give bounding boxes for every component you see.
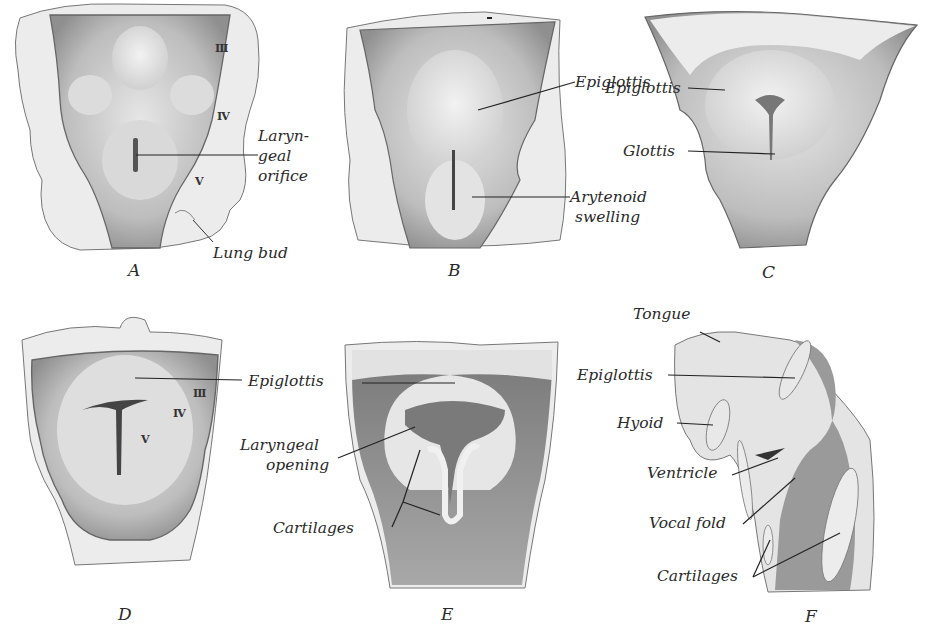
caption-b: B (448, 260, 461, 280)
label-cartilages-f: Cartilages (657, 568, 738, 585)
caption-d: D (118, 604, 132, 624)
label-ventricle: Ventricle (647, 465, 717, 482)
caption-f: F (805, 606, 817, 626)
label-laryngeal-orifice-2: geal (258, 148, 291, 165)
label-arytenoid-2: swelling (575, 209, 640, 226)
illustrations (0, 0, 930, 635)
label-epiglottis-e: Epiglottis (248, 373, 324, 390)
panel-f-illustration (668, 332, 874, 592)
arch-label-iv-a: IV (217, 110, 229, 123)
arch-label-iii-d: III (193, 387, 205, 400)
label-laryngeal-orifice-3: orifice (258, 168, 308, 185)
caption-c: C (762, 262, 775, 282)
label-cartilages-e: Cartilages (273, 520, 354, 537)
panel-c-illustration (645, 12, 917, 248)
label-glottis: Glottis (623, 143, 675, 160)
label-laryngeal-opening-2: opening (266, 457, 329, 474)
arch-label-iv-d: IV (173, 407, 185, 420)
label-epiglottis-c: Epiglottis (605, 80, 681, 97)
arch-label-iii-a: III (215, 42, 227, 55)
label-tongue: Tongue (633, 306, 691, 323)
panel-d-illustration (22, 317, 242, 565)
panel-a-illustration (15, 4, 259, 250)
label-laryngeal-orifice-1: Laryn- (258, 128, 309, 145)
panel-e-illustration (338, 342, 558, 589)
caption-e: E (441, 604, 453, 624)
panel-b-illustration (344, 12, 575, 248)
label-vocal-fold: Vocal fold (649, 515, 726, 532)
label-epiglottis-f: Epiglottis (577, 367, 653, 384)
label-laryngeal-opening-1: Laryngeal (240, 437, 319, 454)
caption-a: A (128, 260, 140, 280)
larynx-development-figure: III IV V Laryn- geal orifice Lung bud A … (0, 0, 930, 635)
label-arytenoid-1: Arytenoid (570, 189, 647, 206)
label-lung-bud: Lung bud (213, 245, 288, 262)
arch-label-v-a: V (195, 175, 203, 188)
label-hyoid: Hyoid (617, 415, 664, 432)
arch-label-v-d: V (141, 433, 149, 446)
